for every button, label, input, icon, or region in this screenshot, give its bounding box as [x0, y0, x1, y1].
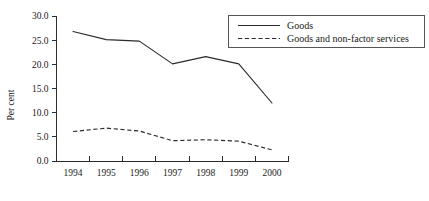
x-tick-label: 2000 — [262, 168, 281, 178]
y-tick-label: 25.0 — [32, 36, 49, 46]
x-tick-label: 1996 — [130, 168, 149, 178]
y-tick-label: 10.0 — [32, 108, 49, 118]
legend-label-goods: Goods — [287, 20, 313, 31]
y-axis-title-text: Per cent — [6, 89, 16, 120]
y-tick-label: 5.0 — [37, 132, 49, 142]
x-axis-ticks: 1994199519961997199819992000 — [64, 156, 282, 178]
y-axis-title: Per cent — [6, 89, 16, 120]
x-tick-label: 1997 — [163, 168, 182, 178]
series-line-goods-and-non-factor-services — [73, 128, 272, 150]
line-chart: Per cent 0.05.010.015.020.025.030.0 1994… — [0, 0, 429, 201]
x-tick-label: 1995 — [97, 168, 116, 178]
legend: Goods Goods and non-factor services — [229, 16, 425, 48]
x-tick-label: 1994 — [64, 168, 83, 178]
y-tick-label: 0.0 — [37, 156, 49, 166]
y-axis-ticks: 0.05.010.015.020.025.030.0 — [32, 11, 57, 166]
x-tick-label: 1999 — [229, 168, 248, 178]
x-tick-label: 1998 — [196, 168, 215, 178]
data-series-group — [73, 31, 272, 149]
y-tick-label: 20.0 — [32, 60, 49, 70]
y-tick-label: 30.0 — [32, 11, 49, 21]
legend-label-goods-and-non-factor-services: Goods and non-factor services — [287, 33, 409, 44]
chart-figure: Per cent 0.05.010.015.020.025.030.0 1994… — [0, 0, 429, 201]
y-tick-label: 15.0 — [32, 84, 49, 94]
